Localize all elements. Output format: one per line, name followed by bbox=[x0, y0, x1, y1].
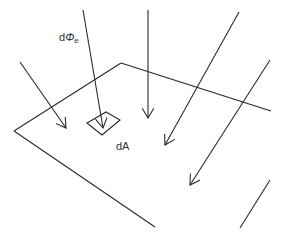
flux-label-subscript: e bbox=[74, 36, 78, 45]
radiant-flux-diagram bbox=[0, 0, 283, 235]
flux-arrow-icon bbox=[20, 62, 66, 128]
plane-surface bbox=[14, 63, 271, 227]
extra-lines bbox=[240, 180, 270, 228]
surface-element-da bbox=[87, 112, 120, 135]
ray-line bbox=[240, 180, 270, 228]
plane-edge bbox=[14, 131, 155, 227]
flux-arrows bbox=[20, 10, 270, 185]
area-label: dA bbox=[116, 140, 129, 152]
plane-edge bbox=[121, 63, 271, 111]
flux-arrow-icon bbox=[83, 10, 103, 128]
flux-label: dΦe bbox=[59, 31, 79, 45]
flux-label-symbol: Φ bbox=[65, 31, 74, 43]
plane-edge bbox=[14, 63, 121, 131]
